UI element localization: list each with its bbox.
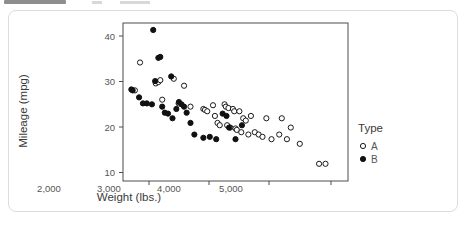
- x-tick-label: 3,000: [97, 183, 121, 194]
- data-point: [224, 113, 229, 118]
- data-point: [248, 113, 253, 118]
- data-point: [264, 116, 269, 121]
- data-point: [214, 137, 219, 142]
- data-point: [144, 101, 149, 106]
- y-tick-label: 40: [104, 31, 115, 42]
- y-tick-labels: 40 30 20 10: [104, 31, 115, 179]
- legend: Type A B: [358, 122, 383, 165]
- legend-label-b: B: [371, 154, 378, 165]
- data-point: [207, 134, 212, 139]
- data-point: [149, 102, 154, 107]
- data-point: [239, 123, 244, 128]
- data-point: [151, 27, 156, 32]
- plot-panel-frame: [123, 23, 348, 181]
- toolbar-ghost-item-2[interactable]: [120, 1, 150, 4]
- data-point: [226, 125, 231, 130]
- legend-label-a: A: [371, 141, 378, 152]
- data-point: [246, 132, 251, 137]
- data-point: [170, 116, 175, 121]
- data-point: [181, 104, 186, 109]
- series-a-points: [132, 60, 328, 167]
- legend-title: Type: [358, 122, 383, 134]
- data-point: [136, 95, 141, 100]
- scatter-plot: Mileage (mpg) Weight (lbs.) 40 30 20 10 …: [9, 11, 459, 213]
- tick-marks: [119, 36, 331, 185]
- data-point: [212, 113, 217, 118]
- data-point: [158, 78, 163, 83]
- data-point: [277, 132, 282, 137]
- data-point: [269, 137, 274, 142]
- data-point: [160, 104, 165, 109]
- legend-marker-b: [360, 156, 365, 161]
- y-tick-label: 10: [104, 167, 115, 178]
- x-tick-label: 5,000: [219, 183, 243, 194]
- data-point: [160, 97, 165, 102]
- data-point: [130, 88, 135, 93]
- data-point: [316, 161, 321, 166]
- toolbar-chip[interactable]: [4, 0, 66, 4]
- data-point: [233, 137, 238, 142]
- figure-card: Mileage (mpg) Weight (lbs.) 40 30 20 10 …: [8, 10, 458, 212]
- data-point: [169, 74, 174, 79]
- data-point: [279, 116, 284, 121]
- toolbar-strip: [0, 0, 466, 6]
- data-point: [188, 104, 193, 109]
- data-point: [243, 118, 248, 123]
- data-point: [232, 109, 237, 114]
- data-point: [188, 120, 193, 125]
- data-point: [284, 137, 289, 142]
- data-point: [210, 103, 215, 108]
- data-point: [184, 110, 189, 115]
- x-tick-label: 2,000: [37, 183, 61, 194]
- data-point: [239, 130, 244, 135]
- data-point: [137, 60, 142, 65]
- data-point: [217, 123, 222, 128]
- data-point: [153, 78, 158, 83]
- toolbar-ghost-item-1[interactable]: [92, 1, 102, 4]
- data-point: [201, 135, 206, 140]
- data-point: [158, 54, 163, 59]
- y-axis-title: Mileage (mpg): [17, 74, 29, 148]
- data-point: [181, 83, 186, 88]
- y-tick-label: 20: [104, 122, 115, 133]
- y-tick-label: 30: [104, 76, 115, 87]
- legend-marker-a: [360, 143, 365, 148]
- data-point: [323, 161, 328, 166]
- x-tick-label: 4,000: [157, 183, 181, 194]
- data-point: [297, 141, 302, 146]
- data-point: [260, 134, 265, 139]
- data-point: [165, 111, 170, 116]
- data-point: [192, 132, 197, 137]
- data-point: [205, 109, 210, 114]
- data-point: [288, 125, 293, 130]
- data-point: [174, 106, 179, 111]
- data-point: [237, 109, 242, 114]
